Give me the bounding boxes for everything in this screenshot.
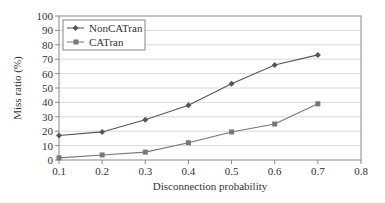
y-tick-label: 90	[42, 24, 54, 36]
square-marker-icon	[143, 150, 148, 155]
x-tick-label: 0.4	[182, 165, 196, 177]
x-axis-ticks: 0.10.20.30.40.50.60.70.8	[52, 160, 368, 177]
legend-label-catran: CATran	[89, 36, 124, 48]
diamond-marker-icon	[185, 102, 191, 108]
data-series	[56, 52, 321, 160]
square-marker-icon	[100, 152, 105, 157]
y-tick-label: 30	[42, 111, 54, 123]
y-tick-label: 50	[42, 82, 54, 94]
diamond-marker-icon	[272, 62, 278, 68]
line-chart: 0102030405060708090100 0.10.20.30.40.50.…	[0, 0, 385, 203]
square-marker-icon	[229, 129, 234, 134]
x-tick-label: 0.8	[354, 165, 368, 177]
legend: NonCATran CATran	[63, 20, 145, 50]
x-tick-label: 0.1	[52, 165, 66, 177]
diamond-marker-icon	[315, 52, 321, 58]
square-marker-icon	[74, 40, 79, 45]
y-tick-label: 80	[42, 39, 54, 51]
y-tick-label: 10	[42, 140, 54, 152]
y-tick-label: 100	[37, 10, 54, 22]
square-marker-icon	[186, 140, 191, 145]
x-tick-label: 0.6	[268, 165, 282, 177]
diamond-marker-icon	[142, 117, 148, 123]
square-marker-icon	[272, 122, 277, 127]
diamond-marker-icon	[99, 129, 105, 135]
x-tick-label: 0.7	[311, 165, 325, 177]
y-axis-label: Miss ratio (%)	[11, 56, 24, 120]
x-axis-label: Disconnection probability	[153, 180, 268, 192]
y-tick-label: 20	[42, 125, 54, 137]
diamond-marker-icon	[56, 133, 62, 139]
x-tick-label: 0.2	[95, 165, 109, 177]
y-tick-label: 70	[42, 53, 54, 65]
square-marker-icon	[57, 155, 62, 160]
y-axis-ticks: 0102030405060708090100	[37, 10, 60, 166]
diamond-marker-icon	[229, 81, 235, 87]
legend-label-noncatran: NonCATran	[89, 22, 143, 34]
square-marker-icon	[315, 101, 320, 106]
x-tick-label: 0.3	[138, 165, 152, 177]
y-tick-label: 60	[42, 68, 54, 80]
series-line-noncatran	[59, 55, 318, 136]
x-tick-label: 0.5	[225, 165, 239, 177]
y-tick-label: 40	[42, 96, 54, 108]
